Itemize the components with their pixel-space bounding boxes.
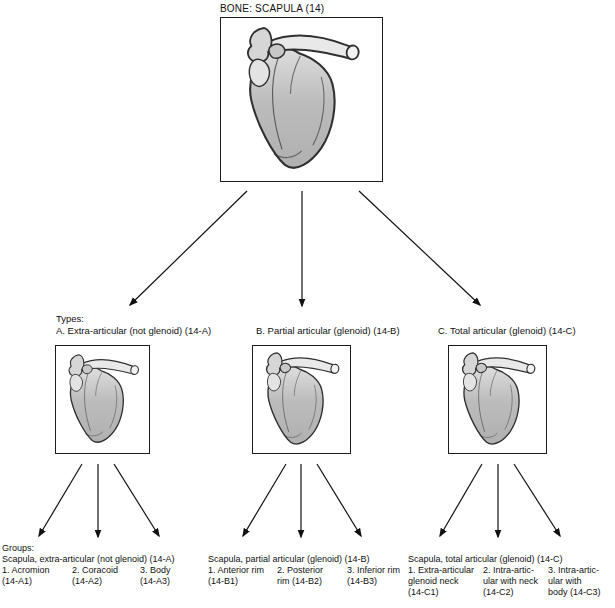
diagram-title: BONE: SCAPULA (14) (220, 3, 324, 15)
type-a-label: A. Extra-articular (not glenoid) (14-A) (56, 325, 211, 337)
group-b-item-3-line: (14-B3) (347, 576, 411, 587)
arrow-a-to-a1 (39, 464, 82, 536)
group-a-block: Groups: Scapula, extra-articular (not gl… (2, 543, 202, 587)
scapula-illustration-main (226, 21, 377, 177)
group-c-item-2: 2. Intra-artic- ular with neck (14-C2) (483, 565, 548, 598)
group-c-item-3: 3. Intra-artic- ular with body (14-C3) (548, 565, 614, 598)
scapula-illustration-b (256, 348, 347, 451)
type-a-box (55, 345, 150, 454)
group-c-header: Scapula, total articular (glenoid) (14-C… (408, 554, 614, 565)
group-b-block: Scapula, partial articular (glenoid) (14… (208, 554, 411, 587)
group-c-item-2-line: (14-C2) (483, 587, 548, 598)
scapula-illustration-a (59, 348, 146, 451)
group-b-header: Scapula, partial articular (glenoid) (14… (208, 554, 411, 565)
type-b-label: B. Partial articular (glenoid) (14-B) (256, 325, 400, 337)
arrow-b-to-b3 (317, 464, 361, 536)
group-a-item-2-line: (14-A2) (72, 576, 140, 587)
arrow-c-to-c1 (440, 464, 482, 536)
groups-heading: Groups: (2, 543, 202, 554)
arrow-c-to-c3 (514, 464, 560, 536)
group-b-item-1-line: 1. Anterior rim (208, 565, 277, 576)
group-c-item-3-line: ular with (548, 576, 614, 587)
type-c-label: C. Total articular (glenoid) (14-C) (438, 325, 576, 337)
group-c-item-1-line: glenoid neck (408, 576, 483, 587)
group-a-item-3-line: (14-A3) (140, 576, 202, 587)
group-b-item-1-line: (14-B1) (208, 576, 277, 587)
group-a-header: Scapula, extra-articular (not glenoid) (… (2, 554, 202, 565)
scapula-illustration-c (452, 348, 543, 451)
group-a-item-1-line: (14-A1) (2, 576, 72, 587)
group-a-item-3: 3. Body (14-A3) (140, 565, 202, 587)
arrow-main-to-type-c (359, 191, 480, 305)
group-c-item-1-line: 1. Extra-articular (408, 565, 483, 576)
arrow-a-to-a3 (114, 464, 159, 536)
group-b-item-3-line: 3. Inferior rim (347, 565, 411, 576)
type-c-box (448, 345, 547, 454)
group-a-item-1: 1. Acromion (14-A1) (2, 565, 72, 587)
group-c-item-3-line: 3. Intra-artic- (548, 565, 614, 576)
group-b-item-3: 3. Inferior rim (14-B3) (347, 565, 411, 587)
group-c-item-3-line: body (14-C3) (548, 587, 614, 598)
group-c-item-2-line: 2. Intra-artic- (483, 565, 548, 576)
group-c-block: Scapula, total articular (glenoid) (14-C… (408, 554, 614, 598)
group-b-item-1: 1. Anterior rim (14-B1) (208, 565, 277, 587)
main-bone-box (220, 17, 383, 182)
group-b-item-2: 2. Posterior rim (14-B2) (277, 565, 347, 587)
group-b-item-2-line: 2. Posterior (277, 565, 347, 576)
group-b-item-2-line: rim (14-B2) (277, 576, 347, 587)
classification-diagram: BONE: SCAPULA (14) Types: A. Extra-artic… (0, 0, 615, 608)
type-b-box (252, 345, 351, 454)
group-a-item-2-line: 2. Coracoid (72, 565, 140, 576)
group-a-item-3-line: 3. Body (140, 565, 202, 576)
group-a-item-2: 2. Coracoid (14-A2) (72, 565, 140, 587)
arrow-b-to-b1 (243, 464, 286, 536)
group-c-item-1-line: (14-C1) (408, 587, 483, 598)
types-heading-block: Types: A. Extra-articular (not glenoid) … (56, 313, 211, 336)
group-c-item-1: 1. Extra-articular glenoid neck (14-C1) (408, 565, 483, 598)
group-a-item-1-line: 1. Acromion (2, 565, 72, 576)
group-c-item-2-line: ular with neck (483, 576, 548, 587)
types-heading: Types: (56, 313, 211, 325)
arrow-main-to-type-a (130, 191, 247, 305)
